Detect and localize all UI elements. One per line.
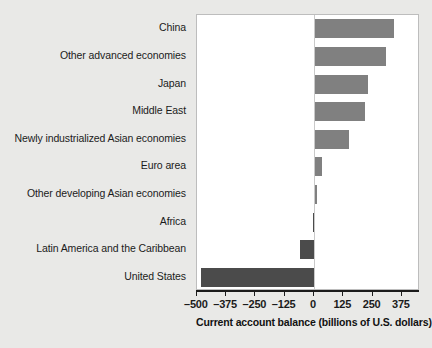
x-tick bbox=[225, 290, 226, 296]
category-axis-labels: ChinaOther advanced economiesJapanMiddle… bbox=[0, 14, 191, 290]
category-label: Japan bbox=[158, 77, 186, 90]
x-tick-label: –125 bbox=[272, 298, 296, 310]
x-tick-label: –500 bbox=[184, 298, 208, 310]
category-label: Euro area bbox=[141, 159, 186, 172]
x-tick-label: 0 bbox=[310, 298, 316, 310]
x-tick bbox=[401, 290, 402, 296]
bar-japan bbox=[315, 75, 368, 94]
bar-newly-industrialized-asian-economies bbox=[315, 130, 349, 149]
bar-united-states bbox=[201, 268, 314, 287]
x-tick bbox=[372, 290, 373, 296]
bar-latin-america-and-the-caribbean bbox=[300, 240, 314, 259]
bar-other-advanced-economies bbox=[315, 47, 386, 66]
bar-africa bbox=[313, 213, 315, 232]
category-label: Middle East bbox=[132, 104, 186, 117]
x-tick bbox=[284, 290, 285, 296]
x-tick bbox=[342, 290, 343, 296]
category-label: Africa bbox=[160, 215, 186, 228]
x-tick-label: 250 bbox=[363, 298, 381, 310]
x-tick-label: 375 bbox=[392, 298, 410, 310]
category-label: China bbox=[159, 21, 186, 34]
x-tick-label: –250 bbox=[243, 298, 267, 310]
x-axis-title: Current account balance (billions of U.S… bbox=[196, 316, 419, 328]
x-tick-label: 125 bbox=[333, 298, 351, 310]
plot-area bbox=[196, 14, 419, 290]
bars-container bbox=[197, 15, 418, 289]
bar-middle-east bbox=[315, 102, 365, 121]
x-tick bbox=[254, 290, 255, 296]
x-tick-label: –375 bbox=[213, 298, 237, 310]
category-label: United States bbox=[124, 270, 186, 283]
current-account-balance-bar-chart: ChinaOther advanced economiesJapanMiddle… bbox=[0, 0, 432, 348]
bar-china bbox=[315, 19, 394, 38]
category-label: Other developing Asian economies bbox=[27, 187, 186, 200]
x-axis-line bbox=[196, 290, 419, 292]
bar-euro-area bbox=[315, 157, 322, 176]
bar-other-developing-asian-economies bbox=[315, 185, 317, 204]
category-label: Other advanced economies bbox=[60, 49, 186, 62]
x-tick bbox=[313, 290, 314, 296]
x-tick bbox=[196, 290, 197, 296]
category-label: Newly industrialized Asian economies bbox=[15, 132, 187, 145]
category-label: Latin America and the Caribbean bbox=[36, 242, 186, 255]
